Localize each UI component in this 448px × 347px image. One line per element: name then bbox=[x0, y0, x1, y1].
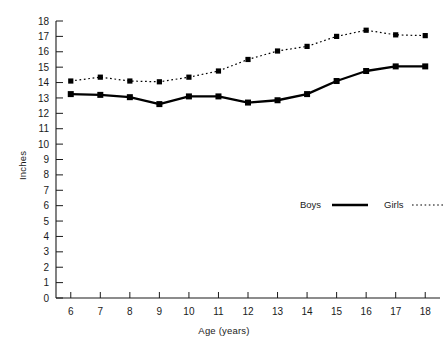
chart-container: 0123456789101112131415161718 67891011121… bbox=[0, 0, 448, 347]
y-axis-title: Inches bbox=[17, 136, 28, 196]
y-tick-label: 12 bbox=[38, 108, 50, 119]
y-tick-label: 5 bbox=[43, 216, 49, 227]
data-point-marker-boys bbox=[127, 94, 133, 100]
data-point-marker-girls bbox=[216, 68, 221, 73]
series-line-boys bbox=[71, 66, 425, 104]
data-point-marker-girls bbox=[304, 44, 309, 49]
data-point-marker-girls bbox=[275, 48, 280, 53]
data-point-marker-girls bbox=[334, 34, 339, 39]
y-tick-label: 11 bbox=[39, 123, 50, 134]
y-tick-label: 1 bbox=[43, 277, 49, 288]
data-point-marker-girls bbox=[364, 28, 369, 33]
data-point-marker-boys bbox=[304, 91, 310, 97]
x-tick-label: 18 bbox=[420, 306, 432, 317]
y-tick-label: 13 bbox=[38, 93, 50, 104]
x-tick-label: 8 bbox=[127, 306, 133, 317]
y-tick-label: 10 bbox=[38, 139, 50, 150]
data-point-marker-girls bbox=[98, 75, 103, 80]
y-tick-label: 4 bbox=[43, 231, 49, 242]
line-chart-plot: 0123456789101112131415161718 67891011121… bbox=[0, 0, 448, 347]
legend-label-boys: Boys bbox=[300, 199, 321, 210]
data-point-marker-girls bbox=[127, 78, 132, 83]
y-tick-label: 2 bbox=[43, 262, 49, 273]
data-point-marker-girls bbox=[423, 33, 428, 38]
y-tick-label: 0 bbox=[43, 293, 49, 304]
y-tick-label: 3 bbox=[43, 246, 49, 257]
x-tick-label: 11 bbox=[213, 306, 224, 317]
y-tick-label: 14 bbox=[38, 77, 50, 88]
chart-legend: Boys Girls bbox=[300, 199, 444, 210]
x-tick-label: 9 bbox=[157, 306, 163, 317]
y-axis-ticks: 0123456789101112131415161718 bbox=[38, 16, 63, 304]
data-point-marker-boys bbox=[422, 63, 428, 69]
data-point-marker-girls bbox=[393, 32, 398, 37]
x-tick-label: 17 bbox=[390, 306, 402, 317]
x-tick-label: 12 bbox=[242, 306, 254, 317]
axis-frame bbox=[56, 21, 440, 298]
y-tick-label: 18 bbox=[38, 16, 50, 27]
y-tick-label: 7 bbox=[43, 185, 49, 196]
x-tick-label: 10 bbox=[183, 306, 195, 317]
data-point-marker-boys bbox=[186, 93, 192, 99]
data-point-marker-boys bbox=[68, 91, 74, 97]
y-tick-label: 15 bbox=[38, 62, 50, 73]
data-point-marker-boys bbox=[156, 101, 162, 107]
x-tick-label: 15 bbox=[331, 306, 343, 317]
data-point-marker-boys bbox=[334, 78, 340, 84]
data-point-marker-boys bbox=[245, 100, 251, 106]
x-tick-label: 16 bbox=[361, 306, 373, 317]
x-axis-ticks: 6789101112131415161718 bbox=[68, 292, 431, 317]
x-tick-label: 14 bbox=[302, 306, 314, 317]
y-tick-label: 17 bbox=[38, 31, 50, 42]
series-girls bbox=[68, 28, 428, 85]
data-point-marker-boys bbox=[363, 68, 369, 74]
y-tick-label: 6 bbox=[43, 200, 49, 211]
data-point-marker-boys bbox=[393, 63, 399, 69]
data-point-marker-girls bbox=[157, 79, 162, 84]
y-tick-label: 8 bbox=[43, 169, 49, 180]
series-boys bbox=[68, 63, 428, 107]
x-tick-label: 7 bbox=[98, 306, 104, 317]
x-axis-title: Age (years) bbox=[0, 325, 448, 336]
series-line-girls bbox=[71, 30, 425, 82]
data-point-marker-boys bbox=[275, 97, 281, 103]
data-point-marker-girls bbox=[186, 75, 191, 80]
y-tick-label: 16 bbox=[38, 46, 50, 57]
x-tick-label: 6 bbox=[68, 306, 74, 317]
data-point-marker-girls bbox=[68, 78, 73, 83]
data-point-marker-girls bbox=[245, 57, 250, 62]
data-point-marker-boys bbox=[215, 93, 221, 99]
y-tick-label: 9 bbox=[43, 154, 49, 165]
data-point-marker-boys bbox=[97, 92, 103, 98]
x-tick-label: 13 bbox=[272, 306, 284, 317]
legend-label-girls: Girls bbox=[384, 199, 404, 210]
